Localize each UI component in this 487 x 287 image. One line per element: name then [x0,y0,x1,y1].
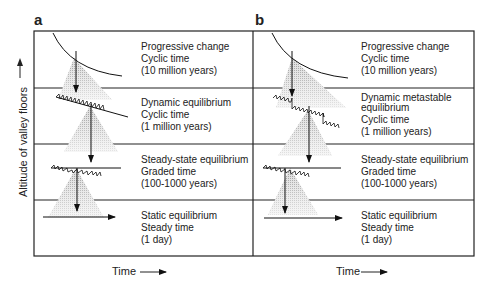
text-line: (10 million years) [361,65,449,77]
x-axis-label-a: Time [112,265,136,277]
text-line: Static equilibrium [361,210,437,222]
text-line: Dynamic equilibrium [141,97,231,109]
panel-a-row-4-text: Static equilibrium Steady time (1 day) [141,210,217,246]
text-line: Steady time [141,222,217,234]
text-line: (100-1000 years) [141,178,248,190]
panel-b-row-2-text: Dynamic metastable equilibrium Cyclic ti… [361,92,452,138]
panel-label-a: a [34,11,42,28]
text-line: Progressive change [361,41,449,53]
text-line: (1 million years) [141,121,231,133]
text-line: Cyclic time [361,53,449,65]
text-line: Cyclic time [361,114,452,126]
text-line: (10 million years) [141,65,229,77]
y-axis-label: Altitude of valley floors [17,67,29,217]
panel-label-b: b [255,11,264,28]
panel-b-row-1-text: Progressive change Cyclic time (10 milli… [361,41,449,77]
text-line: (1 million years) [361,126,452,138]
panel-b-row-3-text: Steady-state equilibrium Graded time (10… [361,154,468,190]
text-line: Graded time [141,166,248,178]
text-line: Cyclic time [141,109,231,121]
text-line: Steady-state equilibrium [141,154,248,166]
text-line: equilibrium [361,102,452,114]
panel-b-cones [268,58,346,215]
panel-a-cones [48,58,118,218]
panel-a-row-3-text: Steady-state equilibrium Graded time (10… [141,154,248,190]
text-line: Static equilibrium [141,210,217,222]
text-line: (100-1000 years) [361,178,468,190]
text-line: Steady time [361,222,437,234]
panel-a-row-1-text: Progressive change Cyclic time (10 milli… [141,41,229,77]
x-axis-label-b: Time [336,265,360,277]
text-line: Progressive change [141,41,229,53]
text-line: (1 day) [141,234,217,246]
text-line: Cyclic time [141,53,229,65]
text-line: (1 day) [361,234,437,246]
text-line: Graded time [361,166,468,178]
text-line: Dynamic metastable [361,92,452,102]
panel-a-row-2-text: Dynamic equilibrium Cyclic time (1 milli… [141,97,231,133]
panel-b-row-4-text: Static equilibrium Steady time (1 day) [361,210,437,246]
text-line: Steady-state equilibrium [361,154,468,166]
